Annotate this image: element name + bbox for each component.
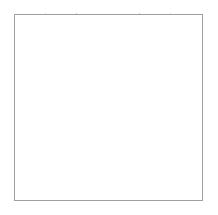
block-outer-border — [14, 14, 202, 200]
quilt-block-diagram: Quilt Block Pattern Symmetric pieced qui… — [0, 0, 218, 215]
